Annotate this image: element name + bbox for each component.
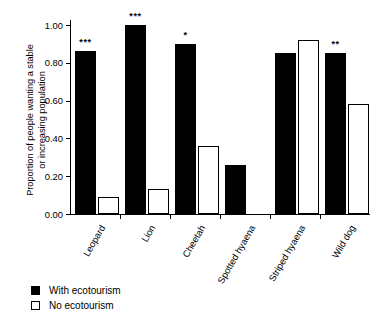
bar-filled-striped-hyaena	[275, 53, 296, 214]
x-axis-group-tick	[120, 214, 121, 219]
y-axis-line	[70, 20, 71, 215]
y-axis-tick-label: 0.00	[45, 208, 63, 221]
bar-filled-lion	[125, 25, 146, 214]
y-axis-tick-label: 1.00	[45, 19, 63, 32]
y-axis-tick-label: 0.20	[45, 170, 63, 183]
bar-open-leopard	[98, 197, 119, 214]
y-axis-tick-label: 0.60	[45, 94, 63, 107]
plot-area: 0.000.200.400.600.801.00 *********	[70, 20, 370, 215]
bar-filled-cheetah	[175, 44, 196, 214]
bar-open-wild-dog	[348, 104, 369, 214]
chart-legend: With ecotourismNo ecotourism	[31, 283, 121, 313]
y-axis-title-line-1: Proportion of people wanting a stable	[24, 44, 36, 196]
bar-open-cheetah	[198, 146, 219, 214]
significance-marker: ***	[125, 12, 146, 21]
y-axis-tick-mark	[66, 214, 70, 215]
bar-filled-leopard	[75, 51, 96, 214]
legend-item: With ecotourism	[31, 283, 121, 298]
bar-open-striped-hyaena	[298, 40, 319, 214]
x-axis-group-tick	[220, 214, 221, 219]
legend-label: No ecotourism	[49, 300, 113, 312]
legend-item: No ecotourism	[31, 298, 121, 313]
y-axis-tick-mark	[66, 101, 70, 102]
significance-marker: ***	[75, 38, 96, 47]
significance-marker: *	[175, 31, 196, 40]
open-square-marker	[31, 301, 40, 310]
y-axis-tick-label: 0.40	[45, 132, 63, 145]
bar-chart-figure: Proportion of people wanting a stable or…	[0, 0, 386, 320]
bar-filled-wild-dog	[325, 53, 346, 214]
y-axis-tick-label: 0.80	[45, 56, 63, 69]
filled-square-marker	[31, 286, 40, 295]
legend-label: With ecotourism	[49, 285, 121, 297]
bar-open-lion	[148, 189, 169, 214]
bar-filled-spotted-hyaena	[225, 165, 246, 214]
y-axis-tick-mark	[66, 176, 70, 177]
y-axis-tick-mark	[66, 138, 70, 139]
significance-marker: **	[325, 40, 346, 49]
y-axis-title: Proportion of people wanting a stable or…	[20, 15, 52, 225]
y-axis-tick-mark	[66, 63, 70, 64]
x-axis-group-tick	[170, 214, 171, 219]
x-axis-group-tick	[320, 214, 321, 219]
x-axis-group-tick	[270, 214, 271, 219]
y-axis-tick-mark	[66, 25, 70, 26]
